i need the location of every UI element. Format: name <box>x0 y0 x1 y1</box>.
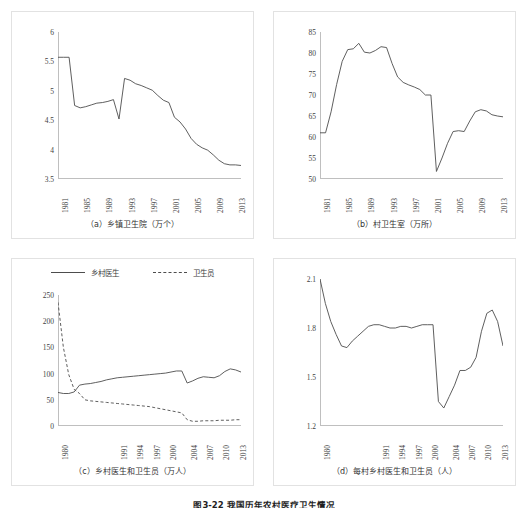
y-axis-labels-c: 050100150200250 <box>12 295 54 426</box>
figure-caption: 图3-22 我国历年农村医疗卫生情况 <box>0 498 528 508</box>
x-tick-label: 2004 <box>190 445 199 460</box>
plot-svg-b <box>320 32 503 179</box>
x-tick-label: 1985 <box>83 198 92 213</box>
y-tick-label: 50 <box>309 175 317 184</box>
x-axis-labels-a: 198119851989199319972001200520092013 <box>58 187 241 217</box>
y-tick-label: 75 <box>309 70 317 79</box>
y-tick-label: 6 <box>50 28 54 37</box>
solid-line-swatch <box>51 272 85 273</box>
figure-root: 3.544.555.56 198119851989199319972001200… <box>0 0 528 508</box>
x-axis-labels-d: 198019911994199720002004200720102013 <box>320 434 503 464</box>
x-axis-labels-c: 198019911994199720002004200720102013 <box>58 434 241 464</box>
y-tick-label: 200 <box>43 317 54 326</box>
x-tick-label: 2005 <box>456 198 465 213</box>
x-tick-label: 1981 <box>61 198 70 213</box>
x-tick-label: 1997 <box>150 198 159 213</box>
y-tick-label: 100 <box>43 369 54 378</box>
series-line-1 <box>58 369 241 394</box>
x-tick-label: 2001 <box>172 198 181 213</box>
chart-panel-d: 1.21.51.82.1 198019911994199720002004200… <box>273 258 516 486</box>
x-tick-label: 1985 <box>345 198 354 213</box>
x-tick-label: 1994 <box>136 445 145 460</box>
panel-caption-c: （c）乡村医生和卫生员（万人） <box>12 465 253 476</box>
y-tick-label: 55 <box>309 154 317 163</box>
x-tick-label: 1993 <box>390 198 399 213</box>
y-axis-labels-d: 1.21.51.82.1 <box>274 279 316 426</box>
series-line-1 <box>320 43 503 171</box>
plot-area-b <box>320 32 503 179</box>
y-tick-label: 4.5 <box>45 116 54 125</box>
x-tick-label: 2010 <box>222 445 231 460</box>
y-axis-labels-b: 5055606570758085 <box>274 32 316 179</box>
x-tick-label: 1993 <box>128 198 137 213</box>
x-tick-label: 1980 <box>323 445 332 460</box>
x-tick-label: 2000 <box>431 445 440 460</box>
x-tick-label: 1989 <box>367 198 376 213</box>
y-tick-label: 1.8 <box>307 324 316 333</box>
x-tick-label: 1997 <box>412 198 421 213</box>
x-axis-labels-b: 198119851989199319972001200520092013 <box>320 187 503 217</box>
panel-caption-d: （d）每村乡村医生和卫生员（人） <box>274 465 515 476</box>
series-line-2 <box>58 302 241 421</box>
x-tick-label: 1997 <box>153 445 162 460</box>
y-tick-label: 70 <box>309 91 317 100</box>
y-tick-label: 80 <box>309 49 317 58</box>
plot-svg-d <box>320 279 503 426</box>
x-tick-label: 2001 <box>434 198 443 213</box>
dashed-line-swatch <box>153 272 187 273</box>
chart-panel-b: 5055606570758085 19811985198919931997200… <box>273 11 516 239</box>
series-line-1 <box>320 279 503 408</box>
x-tick-label: 2007 <box>206 445 215 460</box>
x-tick-label: 1994 <box>398 445 407 460</box>
y-tick-label: 5 <box>50 86 54 95</box>
y-tick-label: 1.2 <box>307 422 316 431</box>
x-tick-label: 1981 <box>323 198 332 213</box>
series-line-1 <box>58 57 241 165</box>
y-tick-label: 150 <box>43 343 54 352</box>
y-tick-label: 85 <box>309 28 317 37</box>
legend-label-rural-doctor: 乡村医生 <box>91 267 119 278</box>
y-tick-label: 5.5 <box>45 57 54 66</box>
y-tick-label: 65 <box>309 112 317 121</box>
x-tick-label: 2000 <box>169 445 178 460</box>
chart-panel-a: 3.544.555.56 198119851989199319972001200… <box>11 11 254 239</box>
y-tick-label: 0 <box>50 422 54 431</box>
x-tick-label: 2004 <box>452 445 461 460</box>
x-tick-label: 2013 <box>501 445 510 460</box>
chart-panel-c: 乡村医生 卫生员 050100150200250 198019911994199… <box>11 258 254 486</box>
x-tick-label: 1980 <box>61 445 70 460</box>
y-tick-label: 50 <box>47 395 55 404</box>
y-tick-label: 3.5 <box>45 175 54 184</box>
x-tick-label: 2013 <box>239 445 248 460</box>
x-tick-label: 2010 <box>484 445 493 460</box>
panel-caption-a: （a）乡镇卫生院（万个） <box>12 218 253 229</box>
x-tick-label: 1997 <box>415 445 424 460</box>
y-tick-label: 4 <box>50 145 54 154</box>
x-tick-label: 2013 <box>500 198 509 213</box>
x-tick-label: 1989 <box>105 198 114 213</box>
panel-caption-b: （b）村卫生室（万所） <box>274 218 515 229</box>
legend-entry-rural-doctor: 乡村医生 <box>51 267 119 278</box>
plot-svg-a <box>58 32 241 179</box>
legend-entry-health-worker: 卫生员 <box>153 267 214 278</box>
plot-area-a <box>58 32 241 179</box>
y-tick-label: 60 <box>309 133 317 142</box>
plot-area-c <box>58 295 241 426</box>
y-axis-labels-a: 3.544.555.56 <box>12 32 54 179</box>
plot-area-d <box>320 279 503 426</box>
x-tick-label: 2007 <box>468 445 477 460</box>
plot-svg-c <box>58 295 241 426</box>
x-tick-label: 1991 <box>382 445 391 460</box>
x-tick-label: 2005 <box>194 198 203 213</box>
legend: 乡村医生 卫生员 <box>12 265 253 279</box>
x-tick-label: 1991 <box>120 445 129 460</box>
x-tick-label: 2009 <box>478 198 487 213</box>
x-tick-label: 2009 <box>216 198 225 213</box>
y-tick-label: 250 <box>43 291 54 300</box>
y-tick-label: 2.1 <box>307 275 316 284</box>
legend-label-health-worker: 卫生员 <box>193 267 214 278</box>
y-tick-label: 1.5 <box>307 373 316 382</box>
x-tick-label: 2013 <box>238 198 247 213</box>
